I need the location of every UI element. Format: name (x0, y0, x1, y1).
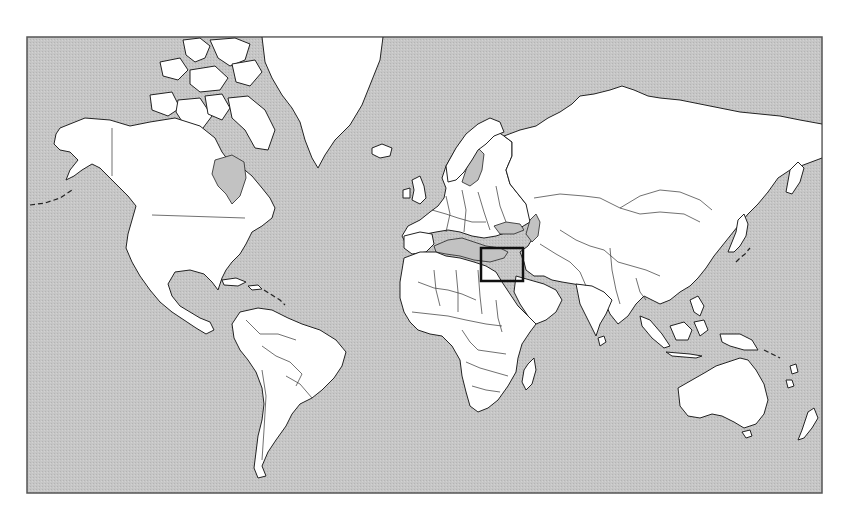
map-page (0, 0, 845, 519)
world-map (0, 0, 845, 519)
